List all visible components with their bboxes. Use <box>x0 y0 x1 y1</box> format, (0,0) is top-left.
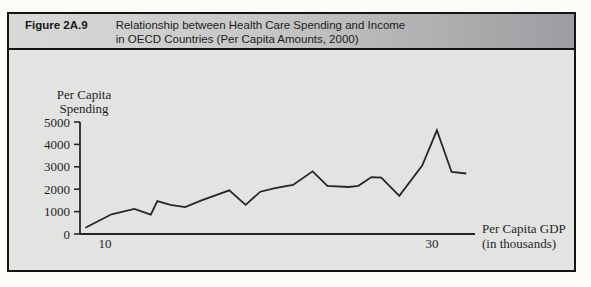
x-tick-label: 30 <box>426 236 439 251</box>
textbook-figure-page: Figure 2A.9 Relationship between Health … <box>0 0 591 287</box>
x-axis-title-line2: (in thousands) <box>482 236 556 251</box>
x-axis-title-line1: Per Capita GDP <box>482 221 566 236</box>
chart-area: Per Capita Spending 50004000300020001000… <box>9 52 574 270</box>
y-tick-label: 0 <box>64 227 71 242</box>
figure-title: Relationship between Health Care Spendin… <box>116 18 406 46</box>
y-tick-label: 4000 <box>44 137 70 152</box>
figure-header: Figure 2A.9 Relationship between Health … <box>9 14 574 50</box>
figure-title-line2: in OECD Countries (Per Capita Amounts, 2… <box>116 32 406 46</box>
y-tick-label: 3000 <box>44 159 70 174</box>
y-axis-title-line1: Per Capita <box>57 87 112 102</box>
y-tick-label: 1000 <box>44 204 70 219</box>
figure-number-label: Figure 2A.9 <box>25 18 88 32</box>
y-tick-label: 2000 <box>44 182 70 197</box>
data-line <box>85 130 466 227</box>
line-chart: Per Capita Spending 50004000300020001000… <box>9 52 574 270</box>
x-tick-labels: 1030 <box>99 236 439 251</box>
y-tick-label: 5000 <box>44 115 70 130</box>
y-ticks: 500040003000200010000 <box>44 115 80 242</box>
figure-title-line1: Relationship between Health Care Spendin… <box>116 18 406 32</box>
figure-frame: Figure 2A.9 Relationship between Health … <box>7 12 576 272</box>
x-tick-label: 10 <box>99 236 112 251</box>
